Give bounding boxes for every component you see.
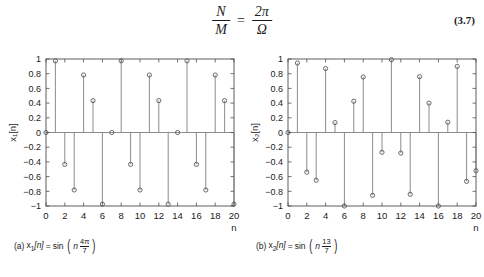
x-tick-label: 20 (229, 210, 240, 221)
caption-b: (b) x2[n] = sin ( n 13 7 ) (256, 238, 339, 254)
caption-a: (a) x1[n] = sin ( n 4π 7 ) (14, 238, 97, 254)
equation-denominator-left: M (212, 22, 230, 37)
y-tick-label: −0.4 (265, 157, 283, 167)
x-tick-label: 12 (396, 210, 407, 221)
caption-b-index: (b) (256, 241, 266, 251)
x-tick-label: 0 (43, 210, 48, 221)
x-tick-label: 18 (210, 210, 221, 221)
caption-b-arg-den: 7 (324, 247, 328, 255)
x-tick-label: 6 (100, 210, 105, 221)
equation-denominator-right: Ω (254, 22, 270, 37)
caption-a-arg-fraction: 4π 7 (80, 238, 89, 254)
y-axis-label: x₁[n] (7, 123, 18, 142)
x-tick-label: 8 (119, 210, 124, 221)
caption-b-signal: x2[n] (268, 240, 285, 252)
y-tick-label: 0.2 (270, 113, 283, 123)
x-tick-label: 4 (81, 210, 86, 221)
y-tick-label: 0 (278, 128, 283, 138)
x-tick-label: 4 (323, 210, 328, 221)
y-tick-label: 0.2 (28, 113, 41, 123)
y-tick-label: −0.6 (23, 172, 41, 182)
y-tick-label: −0.4 (23, 157, 41, 167)
x-tick-label: 0 (285, 210, 290, 221)
x-tick-label: 14 (172, 210, 183, 221)
y-tick-label: −0.8 (265, 187, 283, 197)
caption-b-paren-open: ( (309, 240, 312, 252)
x-tick-label: 6 (342, 210, 347, 221)
y-tick-label: 0.6 (28, 84, 41, 94)
x-tick-label: 10 (377, 210, 388, 221)
equals-sign: = (235, 13, 247, 29)
equation-number: (3.7) (454, 14, 475, 26)
x-tick-label: 2 (62, 210, 67, 221)
panel-a: 10.80.60.40.20−0.2−0.4−0.6−0.8−102468101… (0, 46, 242, 277)
x-tick-label: 20 (471, 210, 482, 221)
x-tick-label: 12 (154, 210, 165, 221)
caption-a-arg-den: 7 (83, 247, 87, 255)
equation-numerator-left: N (213, 4, 228, 19)
caption-b-arg-num: 13 (322, 238, 330, 246)
equation-row: N M = 2π Ω (3.7) (0, 0, 484, 46)
y-tick-label: 0.6 (270, 84, 283, 94)
caption-b-arg-var: n (315, 241, 320, 251)
y-tick-label: 0.8 (270, 69, 283, 79)
y-tick-label: 0 (36, 128, 41, 138)
panel-b: 10.80.60.40.20−0.2−0.4−0.6−0.8−102468101… (242, 46, 484, 277)
caption-a-arg-var: n (73, 241, 78, 251)
x-tick-label: 16 (433, 210, 444, 221)
x-axis-label: n (473, 222, 478, 233)
y-tick-label: 1 (278, 54, 283, 64)
fraction-n-over-m: N M (212, 4, 230, 37)
y-tick-label: 1 (36, 54, 41, 64)
display-equation: N M = 2π Ω (212, 4, 272, 37)
equation-numerator-right: 2π (252, 4, 272, 19)
stem-plot-x2: 10.80.60.40.20−0.2−0.4−0.6−0.8−102468101… (242, 46, 484, 236)
fraction-bar-left (212, 20, 230, 21)
y-axis-label: x₂[n] (249, 123, 260, 142)
caption-b-arg-fraction: 13 7 (322, 238, 331, 254)
x-tick-label: 14 (414, 210, 425, 221)
caption-a-paren-open: ( (67, 240, 70, 252)
x-tick-label: 2 (304, 210, 309, 221)
y-axis-label-group: x₂[n] (249, 123, 260, 142)
caption-a-index: (a) (14, 241, 24, 251)
x-tick-label: 18 (452, 210, 463, 221)
stem-plot-x1: 10.80.60.40.20−0.2−0.4−0.6−0.8−102468101… (0, 46, 242, 236)
caption-b-paren-close: ) (334, 240, 337, 252)
y-tick-label: −0.2 (265, 142, 283, 152)
y-tick-label: 0.4 (270, 98, 283, 108)
x-tick-label: 16 (191, 210, 202, 221)
fraction-2pi-over-omega: 2π Ω (252, 4, 272, 37)
y-tick-label: −1 (273, 201, 283, 211)
caption-a-func: sin (53, 241, 64, 251)
x-tick-label: 8 (361, 210, 366, 221)
figure-group: 10.80.60.40.20−0.2−0.4−0.6−0.8−102468101… (0, 46, 484, 277)
fraction-bar-right (252, 20, 272, 21)
y-tick-label: 0.8 (28, 69, 41, 79)
caption-b-func: sin (295, 241, 306, 251)
caption-a-arg-num: 4π (80, 238, 89, 246)
y-tick-label: −0.2 (23, 142, 41, 152)
y-tick-label: −0.6 (265, 172, 283, 182)
caption-a-signal: x1[n] (26, 240, 43, 252)
y-tick-label: −1 (31, 201, 41, 211)
caption-a-paren-close: ) (93, 240, 96, 252)
y-tick-label: −0.8 (23, 187, 41, 197)
y-tick-label: 0.4 (28, 98, 41, 108)
x-axis-label: n (231, 222, 236, 233)
caption-a-equals: = (46, 241, 51, 251)
caption-b-equals: = (288, 241, 293, 251)
x-tick-label: 10 (135, 210, 146, 221)
y-axis-label-group: x₁[n] (7, 123, 18, 142)
